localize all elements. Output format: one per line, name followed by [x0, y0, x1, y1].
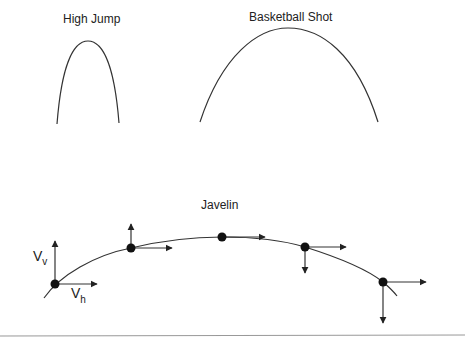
javelin-point-3	[218, 233, 266, 242]
javelin-title: Javelin	[201, 198, 238, 212]
javelin-trajectory	[44, 237, 397, 298]
javelin-point-4	[301, 243, 347, 274]
bottom-divider	[0, 335, 465, 336]
basketball-title: Basketball Shot	[249, 10, 333, 24]
high-jump-trajectory	[57, 41, 119, 124]
projectile-diagram: High Jump Basketball Shot Javelin Vv Vh	[0, 0, 473, 346]
vertical-velocity-label: Vv	[33, 248, 47, 267]
horizontal-velocity-label: Vh	[71, 285, 86, 305]
javelin-point-5	[379, 278, 427, 324]
javelin-point-2	[127, 224, 173, 253]
javelin-point-1	[51, 241, 98, 289]
high-jump-title: High Jump	[63, 12, 121, 26]
basketball-trajectory	[200, 28, 378, 122]
